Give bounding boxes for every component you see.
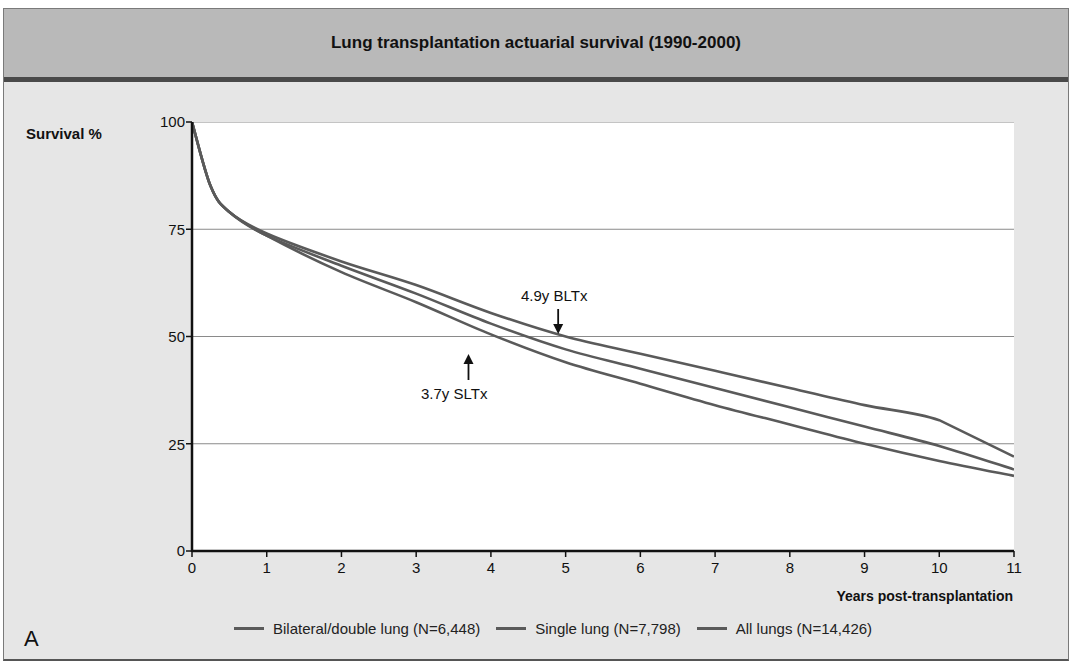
x-tick-label: 8 [775,559,805,576]
x-tick-label: 10 [924,559,954,576]
y-tick-75: 75 [145,221,185,238]
y-axis-label: Survival % [26,125,102,142]
legend-item-single: Single lung (N=7,798) [496,620,681,637]
survival-chart [192,122,1014,551]
y-tick-25: 25 [145,436,185,453]
series-line [192,122,1014,469]
legend-swatch [496,627,526,630]
series-line [192,122,1014,457]
panel-label: A [24,626,39,652]
x-tick-label: 3 [401,559,431,576]
x-tick-label: 5 [551,559,581,576]
legend-label: All lungs (N=14,426) [736,620,872,637]
x-tick-label: 9 [850,559,880,576]
legend-item-bilateral: Bilateral/double lung (N=6,448) [234,620,480,637]
legend-swatch [697,627,727,630]
x-tick-label: 0 [177,559,207,576]
x-tick-label: 7 [700,559,730,576]
legend-swatch [234,627,264,630]
legend-item-all: All lungs (N=14,426) [697,620,872,637]
x-tick-label: 11 [999,559,1029,576]
chart-title: Lung transplantation actuarial survival … [4,33,1068,53]
y-tick-50: 50 [145,328,185,345]
x-tick-label: 4 [476,559,506,576]
y-tick-100: 100 [145,113,185,130]
annotation-sltx: 3.7y SLTx [421,385,487,402]
x-axis-label: Years post-transplantation [836,588,1013,604]
x-tick-label: 2 [326,559,356,576]
plot-area [192,122,1014,551]
x-tick-label: 6 [625,559,655,576]
title-bar: Lung transplantation actuarial survival … [4,9,1068,82]
annotation-bltx: 4.9y BLTx [521,287,587,304]
series-line [192,122,1014,476]
legend-label: Bilateral/double lung (N=6,448) [273,620,480,637]
x-tick-label: 1 [252,559,282,576]
legend: Bilateral/double lung (N=6,448) Single l… [234,620,888,637]
legend-label: Single lung (N=7,798) [535,620,681,637]
y-tick-0: 0 [145,542,185,559]
